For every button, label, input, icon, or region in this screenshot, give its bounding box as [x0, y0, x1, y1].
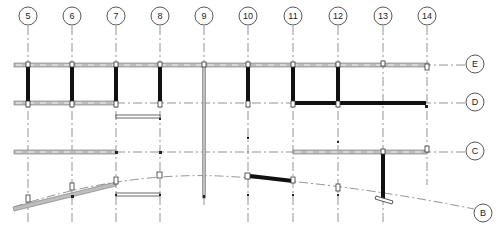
- svg-text:14: 14: [422, 11, 432, 21]
- framing-plan: 5 6 7 8 9 10 11 12 13 14 E D C B: [0, 0, 496, 234]
- svg-text:13: 13: [378, 11, 388, 21]
- svg-text:10: 10: [243, 11, 253, 21]
- svg-text:D: D: [472, 97, 479, 107]
- column-grid-lines: [28, 26, 427, 225]
- svg-text:11: 11: [288, 11, 297, 21]
- grid-bubble-D: D: [466, 93, 484, 111]
- svg-text:B: B: [480, 208, 486, 218]
- row-grid-bubbles: E D C B: [466, 55, 492, 222]
- grid-bubble-14: 14: [418, 7, 436, 25]
- svg-text:C: C: [472, 146, 479, 156]
- heavy-beams: [28, 65, 426, 199]
- svg-text:E: E: [472, 59, 478, 69]
- svg-text:7: 7: [113, 11, 118, 21]
- grid-bubble-C: C: [466, 142, 484, 160]
- grid-bubble-E: E: [466, 55, 484, 73]
- grid-bubble-5: 5: [19, 7, 37, 25]
- grid-bubble-13: 13: [374, 7, 392, 25]
- open-beams: [116, 115, 160, 196]
- grid-bubble-11: 11: [284, 7, 302, 25]
- svg-text:12: 12: [333, 11, 343, 21]
- grid-bubble-6: 6: [63, 7, 81, 25]
- svg-text:5: 5: [25, 11, 30, 21]
- light-beams: [13, 63, 429, 211]
- svg-text:9: 9: [201, 11, 206, 21]
- columns: [26, 61, 429, 204]
- grid-bubble-8: 8: [151, 7, 169, 25]
- grid-bubble-B: B: [474, 204, 492, 222]
- svg-text:8: 8: [157, 11, 162, 21]
- grid-bubble-7: 7: [107, 7, 125, 25]
- column-grid-bubbles: 5 6 7 8 9 10 11 12 13 14: [19, 7, 436, 25]
- grid-bubble-12: 12: [329, 7, 347, 25]
- svg-text:6: 6: [69, 11, 74, 21]
- grid-bubble-10: 10: [239, 7, 257, 25]
- row-grid-lines: [14, 65, 474, 209]
- grid-bubble-9: 9: [195, 7, 213, 25]
